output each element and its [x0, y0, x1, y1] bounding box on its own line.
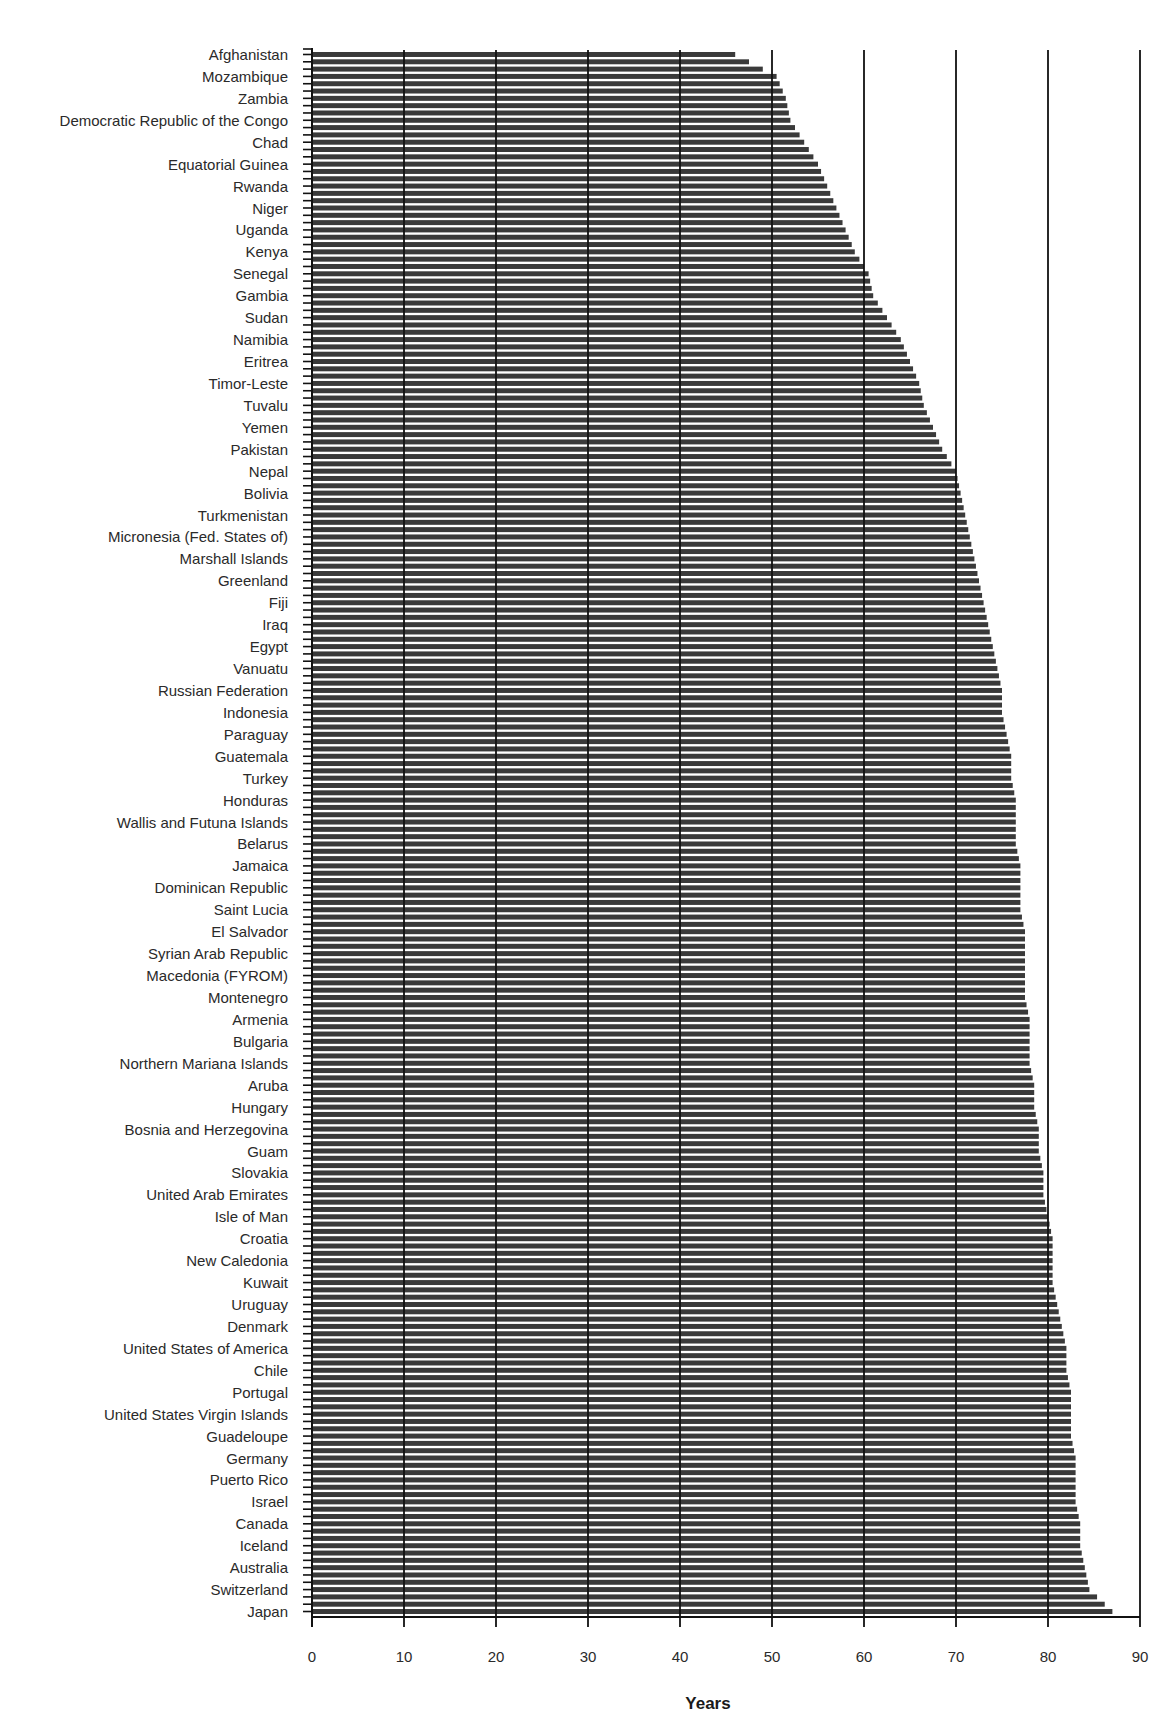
category-label: Australia: [230, 1560, 288, 1576]
bar: [312, 571, 977, 576]
category-label: Bosnia and Herzegovina: [125, 1122, 288, 1138]
bar: [312, 344, 904, 349]
bar: [312, 878, 1020, 883]
category-label: Iraq: [262, 617, 288, 633]
bar: [312, 1317, 1060, 1322]
bar: [312, 1565, 1085, 1570]
bar: [312, 103, 787, 108]
category-label: Uganda: [235, 222, 288, 238]
category-label: Paraguay: [224, 727, 288, 743]
bar: [312, 374, 916, 379]
bar: [312, 1536, 1080, 1541]
category-label: Macedonia (FYROM): [146, 968, 288, 984]
bar: [312, 1200, 1045, 1205]
category-label: Wallis and Futuna Islands: [117, 815, 288, 831]
bar: [312, 644, 993, 649]
bar: [312, 1287, 1054, 1292]
bar: [312, 1448, 1074, 1453]
bar: [312, 147, 809, 152]
bar: [312, 1105, 1034, 1110]
bar: [312, 725, 1005, 730]
bar: [312, 1244, 1053, 1249]
bar: [312, 958, 1025, 963]
x-tick-label: 80: [1040, 1648, 1057, 1665]
bar: [312, 132, 800, 137]
bar: [312, 856, 1019, 861]
bar: [312, 81, 780, 86]
bar: [312, 1441, 1073, 1446]
category-label: Micronesia (Fed. States of): [108, 529, 288, 545]
bar: [312, 666, 997, 671]
bar: [312, 1273, 1053, 1278]
bar: [312, 315, 887, 320]
category-label: Saint Lucia: [214, 902, 288, 918]
category-label: Switzerland: [210, 1582, 288, 1598]
bar: [312, 608, 985, 613]
bar: [312, 1339, 1065, 1344]
bar: [312, 549, 973, 554]
bar: [312, 900, 1020, 905]
bar: [312, 125, 795, 130]
category-label: Montenegro: [208, 990, 288, 1006]
bar: [312, 1185, 1043, 1190]
category-label: Jamaica: [232, 858, 288, 874]
bar: [312, 1119, 1037, 1124]
bar: [312, 1419, 1071, 1424]
bar: [312, 89, 783, 94]
category-label: Canada: [235, 1516, 288, 1532]
bar: [312, 593, 982, 598]
bar: [312, 1068, 1031, 1073]
life-expectancy-bar-chart: AfghanistanMozambiqueZambiaDemocratic Re…: [0, 0, 1170, 1716]
bar: [312, 1324, 1062, 1329]
bar: [312, 929, 1025, 934]
category-label: Northern Mariana Islands: [120, 1056, 288, 1072]
category-label: Hungary: [231, 1100, 288, 1116]
bar: [312, 1178, 1043, 1183]
bar: [312, 1295, 1056, 1300]
category-label: Gambia: [235, 288, 288, 304]
category-label: Isle of Man: [215, 1209, 288, 1225]
bar: [312, 754, 1011, 759]
bar: [312, 1485, 1076, 1490]
bars: [303, 52, 1112, 1614]
bar: [312, 271, 869, 276]
bar: [312, 432, 936, 437]
bar: [312, 1456, 1076, 1461]
bar: [312, 74, 777, 79]
bar: [312, 776, 1011, 781]
bar: [312, 732, 1007, 737]
bar: [312, 1170, 1043, 1175]
bar: [312, 564, 976, 569]
category-label: Iceland: [240, 1538, 288, 1554]
category-label: Guatemala: [215, 749, 288, 765]
bar: [312, 352, 907, 357]
category-label: Germany: [226, 1451, 288, 1467]
category-label: Marshall Islands: [180, 551, 288, 567]
bar: [312, 893, 1020, 898]
category-label: Chile: [254, 1363, 288, 1379]
bar: [312, 841, 1016, 846]
category-label: Senegal: [233, 266, 288, 282]
x-axis-title: Years: [685, 1694, 730, 1714]
bar: [312, 1499, 1076, 1504]
category-label: Russian Federation: [158, 683, 288, 699]
bar: [312, 1477, 1076, 1482]
bar: [312, 322, 892, 327]
bar: [312, 67, 763, 72]
category-label: New Caledonia: [186, 1253, 288, 1269]
category-label: Honduras: [223, 793, 288, 809]
category-label: Sudan: [245, 310, 288, 326]
category-label: Portugal: [232, 1385, 288, 1401]
bar: [312, 1434, 1071, 1439]
bar: [312, 308, 882, 313]
bar: [312, 513, 965, 518]
bar: [312, 505, 964, 510]
bar: [312, 1492, 1076, 1497]
bar: [312, 1558, 1083, 1563]
bar: [312, 1039, 1030, 1044]
bar: [312, 301, 878, 306]
bar: [312, 1404, 1071, 1409]
bar: [312, 1507, 1077, 1512]
bar: [312, 1412, 1071, 1417]
bar: [312, 739, 1008, 744]
